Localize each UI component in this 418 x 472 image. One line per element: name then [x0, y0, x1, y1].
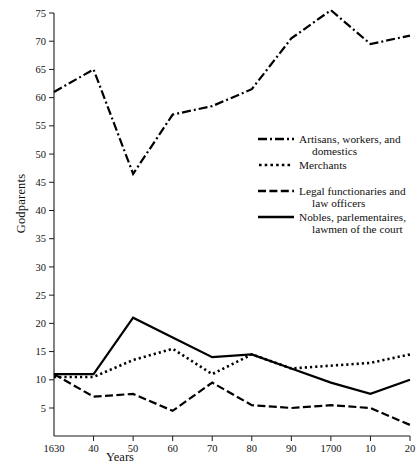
y-axis-title: Godparents [14, 149, 29, 259]
legend-item-nobles: Nobles, parlementaires, lawmen of the co… [258, 211, 418, 236]
legend-swatch-dotted-icon [258, 162, 294, 175]
svg-text:15: 15 [36, 346, 47, 357]
chart-figure: 51015202530354045505560657075 1630405060… [0, 0, 418, 472]
svg-text:25: 25 [36, 290, 47, 301]
legend-label-artisans-line1: Artisans, workers, and [299, 133, 401, 145]
legend-item-artisans: Artisans, workers, and domestics [258, 133, 418, 158]
svg-text:80: 80 [247, 443, 258, 454]
svg-text:10: 10 [365, 443, 376, 454]
svg-text:1700: 1700 [320, 443, 341, 454]
svg-text:75: 75 [36, 8, 47, 19]
y-axis-ticks [49, 13, 54, 408]
legend-spacer [258, 176, 418, 185]
legend-label-nobles: Nobles, parlementaires, lawmen of the co… [299, 211, 406, 236]
x-axis-ticks [94, 436, 410, 441]
svg-text:65: 65 [36, 64, 47, 75]
svg-text:45: 45 [36, 177, 47, 188]
svg-text:40: 40 [36, 205, 47, 216]
legend-label-merchants-line1: Merchants [299, 159, 347, 171]
x-axis-title: Years [0, 450, 240, 465]
legend-swatch-solid-icon [258, 214, 294, 227]
series-line-dashed [54, 374, 410, 425]
svg-text:20: 20 [405, 443, 416, 454]
legend-label-nobles-line1: Nobles, parlementaires, [299, 211, 406, 223]
svg-text:55: 55 [36, 120, 47, 131]
svg-text:90: 90 [286, 443, 297, 454]
series-line-solid [54, 318, 410, 394]
legend-label-legal: Legal functionaries and law officers [299, 185, 406, 210]
svg-text:50: 50 [36, 149, 47, 160]
legend-label-legal-line2: law officers [299, 197, 406, 209]
legend-swatch-dash-dot-icon [258, 136, 294, 149]
chart-legend: Artisans, workers, and domestics Merchan… [258, 133, 418, 236]
svg-text:5: 5 [41, 403, 46, 414]
legend-item-merchants: Merchants [258, 159, 418, 175]
legend-label-legal-line1: Legal functionaries and [299, 185, 406, 197]
legend-label-merchants: Merchants [299, 159, 347, 171]
legend-swatch-dashed-icon [258, 188, 294, 201]
legend-item-legal: Legal functionaries and law officers [258, 185, 418, 210]
svg-text:30: 30 [36, 262, 47, 273]
y-axis-tick-labels: 51015202530354045505560657075 [36, 8, 47, 414]
svg-text:10: 10 [36, 374, 47, 385]
svg-text:20: 20 [36, 318, 47, 329]
svg-text:60: 60 [36, 92, 47, 103]
legend-label-artisans-line2: domestics [299, 145, 401, 157]
legend-label-artisans: Artisans, workers, and domestics [299, 133, 401, 158]
svg-text:70: 70 [36, 36, 47, 47]
legend-label-nobles-line2: lawmen of the court [299, 223, 406, 235]
svg-text:35: 35 [36, 233, 47, 244]
